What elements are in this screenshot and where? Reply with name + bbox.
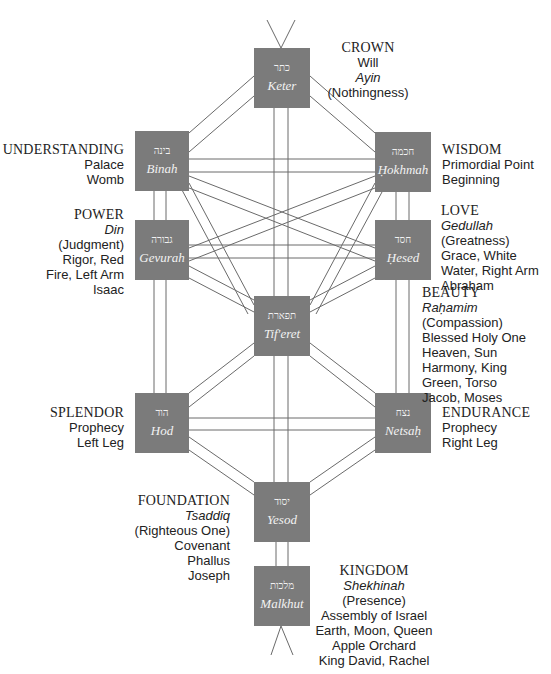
label-line: Isaac <box>0 282 124 297</box>
sefirah-name: Malkhut <box>254 597 310 611</box>
label-line: Covenant <box>120 538 230 553</box>
label-title: KINGDOM <box>314 563 434 578</box>
label-line: Heaven, Sun <box>422 345 551 360</box>
label-hod: SPLENDOR Prophecy Left Leg <box>0 405 124 450</box>
label-line: Womb <box>0 172 124 187</box>
label-title: UNDERSTANDING <box>0 142 124 157</box>
label-line: Tsaddiq <box>120 508 230 523</box>
label-line: Apple Orchard <box>314 638 434 653</box>
hebrew-label: נצח <box>375 407 431 419</box>
sefirah-name: Gevurah <box>135 251 189 265</box>
label-title: ENDURANCE <box>442 405 551 420</box>
label-hesed: LOVE Gedullah (Greatness) Grace, White W… <box>441 203 551 293</box>
sefirah-tiferet: תפארת Tif'eret <box>254 296 310 356</box>
label-binah: UNDERSTANDING Palace Womb <box>0 142 124 187</box>
sefirah-yesod: יסוד Yesod <box>254 482 310 542</box>
label-line: (Righteous One) <box>120 523 230 538</box>
hebrew-label: גבורה <box>135 234 189 246</box>
label-title: SPLENDOR <box>0 405 124 420</box>
label-line: (Presence) <box>314 593 434 608</box>
sefirah-name: Netsaḥ <box>375 424 431 438</box>
sefirah-hesed: חסד Ḥesed <box>375 220 431 280</box>
hebrew-label: תפארת <box>254 310 310 322</box>
hebrew-label: בינה <box>135 145 189 157</box>
sefirah-hokhmah: חכמה Ḥokhmah <box>375 132 431 192</box>
sefirah-name: Ḥesed <box>375 251 431 265</box>
sefirah-keter: כתר Keter <box>254 48 310 108</box>
label-line: Harmony, King <box>422 360 551 375</box>
label-line: Palace <box>0 157 124 172</box>
label-title: POWER <box>0 207 124 222</box>
label-line: Gedullah <box>441 218 551 233</box>
hebrew-label: חכמה <box>375 146 431 158</box>
label-title: FOUNDATION <box>120 493 230 508</box>
label-line: Earth, Moon, Queen <box>314 623 434 638</box>
label-line: Rigor, Red <box>0 252 124 267</box>
sefirah-name: Keter <box>254 79 310 93</box>
label-line: Prophecy <box>442 420 551 435</box>
label-line: Grace, White <box>441 248 551 263</box>
label-line: (Nothingness) <box>318 85 418 100</box>
label-malkhut: KINGDOM Shekhinah (Presence) Assembly of… <box>314 563 434 668</box>
label-line: Water, Right Arm <box>441 263 551 278</box>
label-line: Beginning <box>442 172 551 187</box>
hebrew-label: חסד <box>375 234 431 246</box>
hebrew-label: כתר <box>254 62 310 74</box>
label-line: (Greatness) <box>441 233 551 248</box>
label-line: Primordial Point <box>442 157 551 172</box>
label-line: Din <box>0 222 124 237</box>
sefirah-name: Yesod <box>254 513 310 527</box>
label-line: King David, Rachel <box>314 653 434 668</box>
label-line: Left Leg <box>0 435 124 450</box>
label-gevurah: POWER Din (Judgment) Rigor, Red Fire, Le… <box>0 207 124 297</box>
label-line: Ayin <box>318 70 418 85</box>
label-line: Will <box>318 55 418 70</box>
label-yesod: FOUNDATION Tsaddiq (Righteous One) Coven… <box>120 493 230 583</box>
sefirah-gevurah: גבורה Gevurah <box>135 220 189 280</box>
label-line: Assembly of Israel <box>314 608 434 623</box>
label-line: Jacob, Moses <box>422 390 551 405</box>
label-line: Blessed Holy One <box>422 330 551 345</box>
label-line: Joseph <box>120 568 230 583</box>
label-line: Right Leg <box>442 435 551 450</box>
sefirah-name: Tif'eret <box>254 327 310 341</box>
label-title: LOVE <box>441 203 551 218</box>
sefirah-binah: בינה Binah <box>135 131 189 191</box>
sefirah-name: Ḥokhmah <box>375 163 431 177</box>
label-line: Phallus <box>120 553 230 568</box>
label-line: Fire, Left Arm <box>0 267 124 282</box>
label-title: CROWN <box>318 40 418 55</box>
sefirah-name: Binah <box>135 162 189 176</box>
hebrew-label: יסוד <box>254 496 310 508</box>
hebrew-label: הוד <box>135 407 189 419</box>
hebrew-label: מלכות <box>254 580 310 592</box>
label-line: Shekhinah <box>314 578 434 593</box>
sefirah-malkhut: מלכות Malkhut <box>254 566 310 626</box>
sefirah-name: Hod <box>135 424 189 438</box>
label-line: (Compassion) <box>422 315 551 330</box>
label-line: Green, Torso <box>422 375 551 390</box>
label-netsah: ENDURANCE Prophecy Right Leg <box>442 405 551 450</box>
label-keter: CROWN Will Ayin (Nothingness) <box>318 40 418 100</box>
label-line: Raḥamim <box>422 300 551 315</box>
label-line: Prophecy <box>0 420 124 435</box>
sefirah-hod: הוד Hod <box>135 393 189 453</box>
label-hokhmah: WISDOM Primordial Point Beginning <box>442 142 551 187</box>
label-title: BEAUTY <box>422 285 551 300</box>
label-title: WISDOM <box>442 142 551 157</box>
label-line: (Judgment) <box>0 237 124 252</box>
label-tiferet: BEAUTY Raḥamim (Compassion) Blessed Holy… <box>422 285 551 405</box>
